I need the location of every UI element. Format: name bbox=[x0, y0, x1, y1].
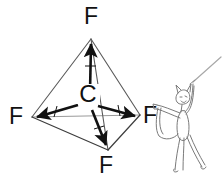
atom-label-f-bottom: F bbox=[99, 152, 113, 178]
atom-label-f-top: F bbox=[84, 3, 98, 29]
diagram-canvas: F F F F C bbox=[0, 0, 222, 179]
atom-label-f-right: F bbox=[143, 102, 157, 128]
atom-label-f-left: F bbox=[9, 103, 23, 129]
atom-label-c-center: C bbox=[79, 80, 96, 107]
tetrahedron-svg: F F F F C bbox=[0, 0, 222, 179]
